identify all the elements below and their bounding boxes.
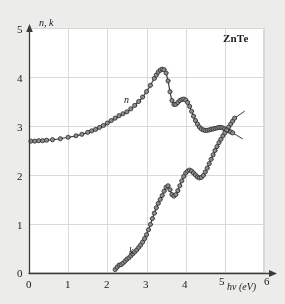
y-tick-5: 5 xyxy=(17,24,23,35)
x-tick-2: 2 xyxy=(104,279,110,290)
y-tick-1: 1 xyxy=(17,220,23,231)
series-label-k: k xyxy=(129,246,133,256)
y-axis-title: n, k xyxy=(39,18,53,28)
x-tick-5: 5 xyxy=(219,276,225,287)
y-tick-0: 0 xyxy=(17,268,23,279)
x-axis-title: hv (eV) xyxy=(227,282,256,292)
x-tick-1: 1 xyxy=(65,279,71,290)
x-tick-3: 3 xyxy=(143,279,149,290)
chart-canvas xyxy=(0,0,285,304)
x-tick-6: 6 xyxy=(264,276,270,287)
y-tick-3: 3 xyxy=(17,122,23,133)
y-tick-4: 4 xyxy=(17,73,23,84)
x-tick-0: 0 xyxy=(26,279,32,290)
material-label: ZnTe xyxy=(223,33,248,44)
series-label-n: n xyxy=(124,95,129,105)
x-tick-4: 4 xyxy=(182,279,188,290)
figure-container: n, k 5 4 3 2 1 0 0 1 2 3 4 5 6 hv (eV) Z… xyxy=(0,0,285,304)
y-tick-2: 2 xyxy=(17,171,23,182)
